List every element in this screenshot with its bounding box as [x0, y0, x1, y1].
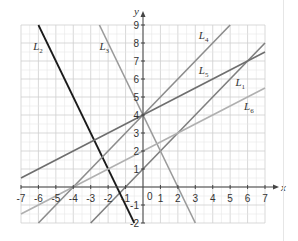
x-tick-label: 3 [193, 193, 199, 204]
label-l6: L6 [243, 100, 254, 115]
y-tick-label: 8 [133, 38, 139, 49]
x-tick-label: 1 [158, 193, 164, 204]
origin-label: 0 [147, 191, 153, 202]
label-l2: L2 [32, 40, 43, 55]
x-tick-label: 4 [210, 193, 216, 204]
x-tick-label: 5 [227, 193, 233, 204]
x-tick-label: -6 [34, 193, 43, 204]
x-tick-label: 7 [262, 193, 268, 204]
x-tick-label: -7 [17, 193, 26, 204]
x-tick-label: 2 [175, 193, 181, 204]
y-tick-label: 7 [133, 56, 139, 67]
right-divider [283, 0, 284, 241]
y-tick-label: 6 [133, 74, 139, 85]
x-tick-label: -3 [86, 193, 95, 204]
y-tick-label: 1 [133, 164, 139, 175]
y-axis-label: y [133, 5, 139, 17]
y-tick-label: -1 [130, 200, 139, 211]
x-tick-label: -1 [121, 193, 130, 204]
tick-labels: -7-6-5-4-3-2-11234567-2-11234567890xy [17, 5, 286, 229]
y-tick-label: 2 [133, 146, 139, 157]
coordinate-plane: -7-6-5-4-3-2-11234567-2-11234567890xy L1… [0, 0, 298, 241]
y-tick-label: 9 [133, 20, 139, 31]
label-l5: L5 [198, 64, 209, 79]
y-tick-label: 4 [133, 110, 139, 121]
x-tick-label: -5 [51, 193, 60, 204]
x-tick-label: -2 [104, 193, 113, 204]
y-tick-label: 5 [133, 92, 139, 103]
label-l4: L4 [198, 29, 209, 44]
label-l1: L1 [234, 76, 245, 91]
y-tick-label: -2 [130, 218, 139, 229]
y-tick-label: 3 [133, 128, 139, 139]
x-axis-arrow-icon [273, 185, 279, 190]
y-axis-arrow-icon [141, 11, 146, 17]
x-tick-label: -4 [69, 193, 78, 204]
x-tick-label: 6 [245, 193, 251, 204]
